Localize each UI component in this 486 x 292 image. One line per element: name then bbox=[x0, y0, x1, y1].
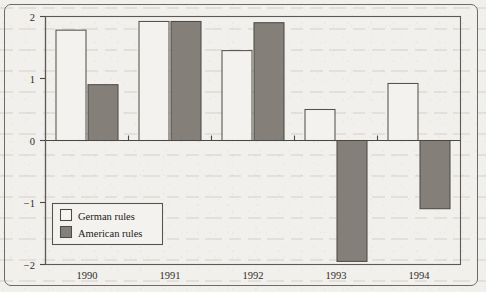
x-tick-label-1991: 1991 bbox=[160, 270, 181, 281]
bar-german-rules-1990 bbox=[56, 30, 86, 140]
bar-chart: 2 1 0 −1 −2 19901991199219931994 German … bbox=[0, 0, 486, 292]
x-tick-label-1994: 1994 bbox=[409, 270, 431, 281]
bar-american-rules-1994 bbox=[420, 141, 450, 209]
bar-american-rules-1993 bbox=[337, 141, 367, 262]
legend-label-american-rules: American rules bbox=[78, 228, 142, 239]
bar-german-rules-1994 bbox=[388, 83, 418, 140]
bar-american-rules-1990 bbox=[88, 85, 118, 141]
legend-swatch-american-rules bbox=[61, 227, 72, 238]
x-tick-label-1990: 1990 bbox=[77, 270, 98, 281]
bar-german-rules-1992 bbox=[222, 51, 252, 141]
chart-legend: German rules American rules bbox=[53, 204, 163, 245]
y-axis-ticks bbox=[40, 17, 46, 265]
y-tick-label-2: 2 bbox=[30, 12, 35, 23]
x-tick-label-1992: 1992 bbox=[243, 270, 264, 281]
legend-label-german-rules: German rules bbox=[78, 211, 135, 222]
y-tick-label-0: 0 bbox=[30, 136, 35, 147]
y-tick-label-neg2: −2 bbox=[24, 260, 35, 271]
y-tick-label-1: 1 bbox=[30, 74, 35, 85]
y-axis-tick-labels: 2 1 0 −1 −2 bbox=[24, 12, 35, 271]
x-tick-label-1993: 1993 bbox=[326, 270, 347, 281]
x-axis-tick-labels: 19901991199219931994 bbox=[77, 270, 431, 281]
bar-american-rules-1992 bbox=[254, 23, 284, 141]
figure-root: 2 1 0 −1 −2 19901991199219931994 German … bbox=[0, 0, 486, 292]
bar-german-rules-1991 bbox=[139, 21, 169, 140]
bar-american-rules-1991 bbox=[171, 21, 201, 140]
y-tick-label-neg1: −1 bbox=[24, 198, 35, 209]
bar-german-rules-1993 bbox=[305, 110, 335, 141]
legend-swatch-german-rules bbox=[61, 210, 72, 221]
